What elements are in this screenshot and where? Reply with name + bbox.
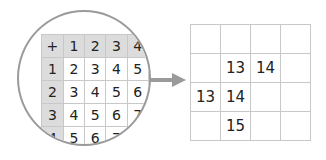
- grid-cell: 13: [191, 83, 221, 112]
- grid-cell: [191, 112, 221, 141]
- table-row: 3 4 5 6 7: [42, 104, 149, 127]
- table-row: 2 3 4 5 6: [42, 81, 149, 104]
- table-cell: 2: [63, 58, 84, 81]
- table-row: 1 2 3 4 5: [42, 58, 149, 81]
- grid-row: 13 14: [191, 54, 311, 83]
- grid-cell: [281, 54, 311, 83]
- table-cell: 4: [42, 127, 64, 147]
- table-cell: [127, 127, 148, 147]
- table-cell: 3: [42, 104, 64, 127]
- table-cell: 3: [106, 35, 127, 58]
- table-cell: +: [42, 35, 64, 58]
- result-grid: 13 14 13 14 15: [190, 24, 311, 141]
- table-cell: 4: [63, 104, 84, 127]
- grid-cell: [191, 25, 221, 54]
- table-cell: 1: [42, 58, 64, 81]
- table-cell: 6: [85, 127, 106, 147]
- grid-row: 13 14: [191, 83, 311, 112]
- grid-cell: [281, 112, 311, 141]
- grid-cell: [281, 25, 311, 54]
- table-cell: 3: [63, 81, 84, 104]
- table-cell: 5: [106, 81, 127, 104]
- grid-cell: [191, 54, 221, 83]
- addition-table: + 1 2 3 4 1 2 3 4 5 2 3 4 5 6 3 4 5 6 7: [41, 34, 149, 146]
- table-cell: 5: [127, 58, 148, 81]
- table-row: 4 5 6 7: [42, 127, 149, 147]
- grid-cell: [281, 83, 311, 112]
- grid-cell: [251, 25, 281, 54]
- table-cell: 2: [42, 81, 64, 104]
- table-cell: 6: [106, 104, 127, 127]
- grid-cell: 13: [221, 54, 251, 83]
- table-cell: 2: [85, 35, 106, 58]
- table-cell: 1: [63, 35, 84, 58]
- grid-cell: [251, 112, 281, 141]
- table-cell: 3: [85, 58, 106, 81]
- table-cell: 4: [127, 35, 148, 58]
- grid-row: [191, 25, 311, 54]
- magnifier-circle: + 1 2 3 4 1 2 3 4 5 2 3 4 5 6 3 4 5 6 7: [17, 10, 151, 146]
- table-cell: 7: [106, 127, 127, 147]
- table-cell: 6: [127, 81, 148, 104]
- grid-cell: [221, 25, 251, 54]
- table-cell: 5: [63, 127, 84, 147]
- table-cell: 4: [85, 81, 106, 104]
- table-cell: 4: [106, 58, 127, 81]
- grid-row: 15: [191, 112, 311, 141]
- grid-cell: 14: [251, 54, 281, 83]
- grid-cell: 14: [221, 83, 251, 112]
- table-cell: 7: [127, 104, 148, 127]
- table-cell: 5: [85, 104, 106, 127]
- arrow-right-icon: [150, 73, 186, 87]
- grid-cell: 15: [221, 112, 251, 141]
- grid-cell: [251, 83, 281, 112]
- table-row: + 1 2 3 4: [42, 35, 149, 58]
